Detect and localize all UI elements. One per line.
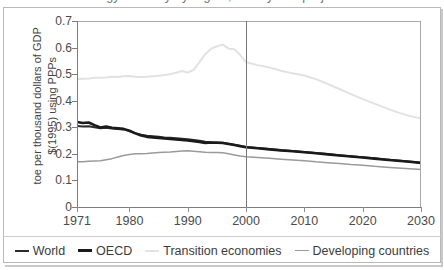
- legend-swatch-icon: [15, 250, 29, 252]
- y-axis-tick: [72, 127, 77, 128]
- y-axis-tick-label: 0.3: [28, 121, 72, 133]
- y-axis-tick: [72, 154, 77, 155]
- legend-item-transition-economies[interactable]: Transition economies: [145, 244, 281, 258]
- legend-label: OECD: [96, 244, 132, 258]
- chart-title-cropped: Energy intensity by region, history and …: [0, 0, 444, 7]
- x-axis-tick-label: 2000: [232, 215, 260, 228]
- y-axis-tick-label: 0.7: [28, 15, 72, 27]
- legend-item-oecd[interactable]: OECD: [78, 244, 132, 258]
- x-axis-tick-label: 2030: [407, 215, 435, 228]
- x-axis-tick-label: 1990: [174, 215, 202, 228]
- x-axis-tick: [246, 207, 247, 212]
- y-axis-tick: [72, 21, 77, 22]
- x-axis-tick-labels: 1971198019902000201020202030: [77, 207, 421, 229]
- plot-border: [77, 21, 421, 207]
- x-axis-tick: [77, 207, 78, 212]
- y-axis-tick-label: 0: [28, 201, 72, 213]
- history-projection-divider: [246, 21, 247, 207]
- legend-item-world[interactable]: World: [15, 244, 65, 258]
- chart-figure: Energy intensity by region, history and …: [0, 0, 444, 270]
- y-axis-tick-label: 0.1: [28, 174, 72, 186]
- chart-title-text: Energy intensity by region, history and …: [79, 0, 365, 3]
- x-axis-tick: [188, 207, 189, 212]
- x-axis-tick-label: 2020: [349, 215, 377, 228]
- frame-shadow-right: [441, 9, 443, 265]
- y-axis-tick: [72, 180, 77, 181]
- frame-shadow-bottom: [5, 265, 443, 267]
- y-axis-tick-labels: 0.70.60.50.40.30.20.10: [28, 21, 72, 207]
- legend-swatch-icon: [295, 250, 309, 252]
- y-axis-tick-label: 0.5: [28, 68, 72, 80]
- y-axis-tick-label: 0.4: [28, 95, 72, 107]
- chart-legend: WorldOECDTransition economiesDeveloping …: [3, 236, 441, 264]
- legend-label: Developing countries: [313, 244, 430, 258]
- legend-label: World: [33, 244, 65, 258]
- y-axis-tick-label: 0.6: [28, 42, 72, 54]
- legend-swatch-icon: [78, 249, 92, 252]
- y-axis-tick: [72, 48, 77, 49]
- y-axis-tick-label: 0.2: [28, 148, 72, 160]
- y-axis-tick: [72, 101, 77, 102]
- legend-swatch-icon: [145, 250, 159, 252]
- x-axis-tick: [129, 207, 130, 212]
- legend-item-developing-countries[interactable]: Developing countries: [295, 244, 430, 258]
- x-axis-tick: [421, 207, 422, 212]
- x-axis-tick-label: 1980: [116, 215, 144, 228]
- x-axis-tick-label: 1971: [63, 215, 91, 228]
- y-axis-line: [77, 21, 78, 207]
- x-axis-tick: [363, 207, 364, 212]
- plot-area: [77, 21, 421, 207]
- x-axis-tick: [304, 207, 305, 212]
- legend-label: Transition economies: [163, 244, 281, 258]
- y-axis-tick: [72, 74, 77, 75]
- x-axis-tick-label: 2010: [290, 215, 318, 228]
